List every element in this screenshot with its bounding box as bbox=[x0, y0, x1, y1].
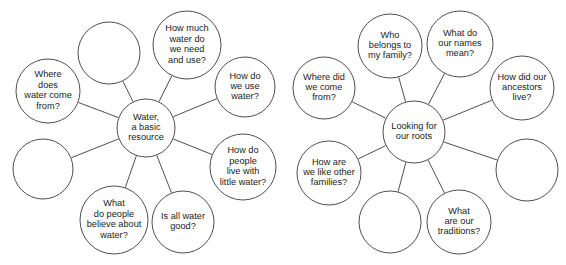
node-label-line: does bbox=[38, 80, 58, 90]
topic-node[interactable]: How dopeoplelive withlittle water? bbox=[210, 134, 276, 200]
node-label-line: and use? bbox=[168, 55, 206, 65]
node-circles-layer: How muchwater dowe needand use?Wheredoes… bbox=[13, 11, 558, 254]
node-label-line: our roots bbox=[396, 132, 433, 142]
node-label-line: live? bbox=[513, 93, 532, 103]
topic-node[interactable] bbox=[359, 191, 421, 253]
node-label-line: What do bbox=[443, 28, 477, 38]
connector-line bbox=[429, 74, 445, 104]
node-label-line: we like other bbox=[302, 167, 355, 177]
node-label-line: Where did bbox=[303, 72, 345, 82]
node-label-line: Who bbox=[381, 30, 400, 40]
node-label-line: What bbox=[448, 206, 470, 216]
topic-node[interactable]: How did ourancestorslive? bbox=[490, 56, 554, 120]
node-label-line: water? bbox=[230, 92, 259, 102]
node-label-line: good? bbox=[170, 222, 196, 232]
node-label-line: How much bbox=[165, 24, 208, 34]
node-label-line: belongs to bbox=[369, 40, 411, 50]
node-label-line: we come bbox=[305, 82, 343, 92]
topic-node[interactable]: Wheredoeswater comefrom? bbox=[16, 59, 80, 123]
node-label-line: water do bbox=[168, 34, 204, 44]
connector-line bbox=[444, 142, 497, 160]
center-node[interactable]: Water,a basicresource bbox=[117, 99, 175, 157]
node-label-line: Is all water bbox=[161, 211, 205, 221]
connector-line bbox=[398, 162, 406, 191]
node-label: How dowe usewater? bbox=[229, 71, 260, 102]
node-label-line: families? bbox=[311, 178, 347, 188]
node-label-line: do people bbox=[94, 209, 134, 219]
connector-line bbox=[443, 100, 492, 120]
node-circle[interactable] bbox=[359, 191, 421, 253]
node-label-line: our names bbox=[438, 38, 482, 48]
connector-line bbox=[78, 102, 118, 117]
node-label-line: What bbox=[103, 199, 125, 209]
connector-line bbox=[123, 81, 133, 101]
topic-node[interactable]: Whatdo peoplebelieve aboutwater? bbox=[80, 186, 148, 254]
connector-line bbox=[71, 139, 118, 158]
connector-line bbox=[125, 156, 136, 188]
topic-node[interactable]: Whatare ourtraditions? bbox=[427, 190, 491, 254]
connector-line bbox=[173, 99, 217, 117]
connector-line bbox=[428, 160, 444, 193]
topic-node[interactable] bbox=[78, 22, 140, 84]
topic-node[interactable]: What doour namesmean? bbox=[427, 11, 493, 77]
connector-line bbox=[352, 102, 385, 118]
node-label-line: ancestors bbox=[502, 82, 542, 92]
mind-map-diagram: How muchwater dowe needand use?Wheredoes… bbox=[0, 0, 566, 265]
node-label-line: little water? bbox=[220, 177, 266, 187]
connector-line bbox=[157, 155, 172, 192]
node-circle[interactable] bbox=[496, 139, 558, 201]
center-node[interactable]: Looking forour roots bbox=[383, 101, 445, 163]
node-label-line: from? bbox=[312, 93, 336, 103]
connector-line bbox=[159, 76, 172, 102]
node-label-line: Looking for bbox=[391, 121, 436, 131]
node-label-line: How do bbox=[227, 146, 258, 156]
node-label-line: Where bbox=[34, 70, 61, 80]
topic-node[interactable] bbox=[13, 139, 73, 199]
node-label-line: from? bbox=[36, 101, 60, 111]
node-label-line: live with bbox=[227, 167, 260, 177]
node-label-line: my family? bbox=[368, 51, 412, 61]
topic-node[interactable]: How arewe like otherfamilies? bbox=[297, 141, 361, 205]
topic-node[interactable]: Where didwe comefrom? bbox=[293, 57, 355, 119]
topic-node[interactable]: How dowe usewater? bbox=[215, 57, 275, 117]
node-label-line: water come bbox=[23, 91, 72, 101]
topic-node[interactable]: Is all watergood? bbox=[152, 191, 214, 253]
center-label: Water,a basicresource bbox=[128, 112, 164, 143]
node-label-line: How are bbox=[312, 157, 346, 167]
node-label-line: we need bbox=[169, 45, 205, 55]
node-label-line: resource bbox=[128, 133, 164, 143]
node-label-line: people bbox=[229, 156, 257, 166]
node-label-line: How did our bbox=[497, 72, 546, 82]
node-label-line: traditions? bbox=[438, 227, 480, 237]
node-label-line: believe about bbox=[87, 220, 142, 230]
node-label: How muchwater dowe needand use? bbox=[165, 24, 208, 65]
topic-node[interactable] bbox=[496, 139, 558, 201]
connector-line bbox=[399, 77, 406, 101]
node-label-line: are our bbox=[444, 216, 473, 226]
node-label-line: we use bbox=[229, 81, 259, 91]
node-label-line: mean? bbox=[446, 49, 474, 59]
node-label-line: Water, bbox=[133, 112, 159, 122]
connector-line bbox=[358, 146, 385, 159]
node-label-line: a basic bbox=[131, 122, 161, 132]
center-label: Looking forour roots bbox=[391, 121, 436, 141]
node-label-line: water? bbox=[99, 230, 128, 240]
node-label-line: How do bbox=[229, 71, 260, 81]
node-circle[interactable] bbox=[13, 139, 73, 199]
connector-line bbox=[173, 139, 212, 154]
topic-node[interactable]: Whobelongs tomy family? bbox=[358, 14, 422, 78]
topic-node[interactable]: How muchwater dowe needand use? bbox=[153, 11, 221, 79]
node-circle[interactable] bbox=[78, 22, 140, 84]
